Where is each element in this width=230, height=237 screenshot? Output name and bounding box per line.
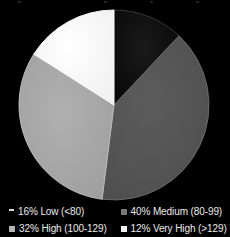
legend-swatch-icon-very-high bbox=[121, 226, 127, 232]
legend-swatch-icon-high bbox=[9, 226, 15, 232]
legend-swatch-icon-low bbox=[9, 209, 14, 211]
chart-legend: 16% Low (<80) 40% Medium (80-99) 32% Hig… bbox=[0, 203, 229, 237]
pie-slice-group: 12% Very High (>129)40% Medium (80-99)32… bbox=[19, 10, 209, 200]
legend-item-low[interactable]: 16% Low (<80) bbox=[0, 203, 115, 220]
pie-chart-figure: 12% Very High (>129)40% Medium (80-99)32… bbox=[0, 0, 229, 237]
legend-item-very-high[interactable]: 12% Very High (>129) bbox=[115, 220, 230, 237]
legend-item-medium[interactable]: 40% Medium (80-99) bbox=[115, 203, 230, 220]
legend-item-high[interactable]: 32% High (100-129) bbox=[0, 220, 115, 237]
pie-plot-area: 12% Very High (>129)40% Medium (80-99)32… bbox=[0, 0, 229, 205]
legend-label-medium: 40% Medium (80-99) bbox=[131, 206, 223, 217]
legend-swatch-icon-medium bbox=[121, 209, 127, 215]
legend-label-low: 16% Low (<80) bbox=[18, 206, 84, 217]
pie-svg: 12% Very High (>129)40% Medium (80-99)32… bbox=[0, 0, 229, 205]
legend-label-very-high: 12% Very High (>129) bbox=[131, 223, 227, 234]
legend-label-high: 32% High (100-129) bbox=[19, 223, 107, 234]
